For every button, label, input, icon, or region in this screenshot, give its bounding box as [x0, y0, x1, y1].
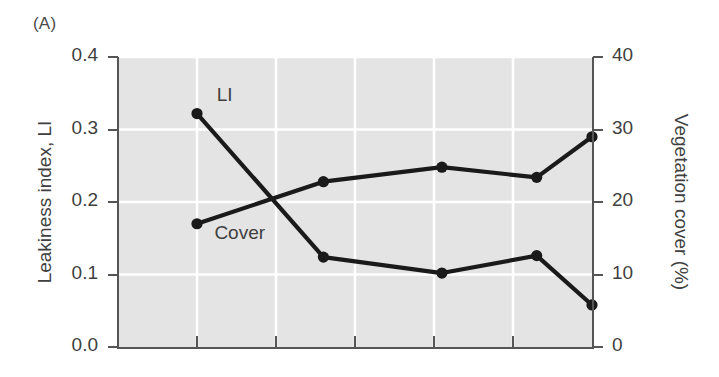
y-axis-right-ticklabel-4: 40 [612, 44, 633, 66]
axis-spine-right [592, 57, 594, 349]
y-axis-right-ticklabel-2: 20 [612, 189, 633, 211]
data-point-li-0 [191, 108, 202, 119]
data-point-li-2 [436, 267, 447, 278]
y-axis-left-tick-4 [108, 56, 118, 58]
y-axis-left-tick-1 [108, 274, 118, 276]
y-axis-right-tick-0 [593, 346, 603, 348]
y-axis-right-ticklabel-0: 0 [612, 334, 623, 356]
x-axis-tick-3 [433, 336, 435, 348]
figure-panel-a: (A) 0.00.10.20.30.4010203040 Leakiness i… [0, 0, 719, 377]
y-axis-right-tick-3 [593, 129, 603, 131]
gridlines [118, 57, 592, 347]
y-axis-right-title: Vegetation cover (%) [666, 57, 692, 347]
y-axis-left-title: Leakiness index, LI [34, 57, 60, 347]
y-axis-right-ticklabel-1: 10 [612, 262, 633, 284]
plot-area [118, 57, 592, 347]
data-series-group [191, 108, 597, 311]
data-point-cover-3 [531, 172, 542, 183]
y-axis-right-tick-4 [593, 56, 603, 58]
y-axis-right-tick-2 [593, 201, 603, 203]
series-label-li: LI [217, 84, 233, 106]
y-axis-left-ticklabel-1: 0.1 [72, 262, 98, 284]
y-axis-left-tick-3 [108, 129, 118, 131]
series-line-li [197, 114, 592, 305]
y-axis-left-tick-0 [108, 346, 118, 348]
y-axis-right-ticklabel-3: 30 [612, 117, 633, 139]
data-point-cover-0 [191, 218, 202, 229]
x-axis-tick-2 [354, 336, 356, 348]
y-axis-left-ticklabel-3: 0.3 [72, 117, 98, 139]
y-axis-left-ticklabel-4: 0.4 [72, 44, 98, 66]
plot-svg [118, 57, 592, 347]
data-point-cover-2 [436, 162, 447, 173]
series-label-cover: Cover [214, 222, 265, 244]
y-axis-right-tick-1 [593, 274, 603, 276]
y-axis-left-ticklabel-2: 0.2 [72, 189, 98, 211]
x-axis-tick-0 [196, 336, 198, 348]
data-point-li-3 [531, 250, 542, 261]
x-axis-tick-1 [275, 336, 277, 348]
y-axis-left-ticklabel-0: 0.0 [72, 334, 98, 356]
x-axis-tick-4 [512, 336, 514, 348]
y-axis-left-tick-2 [108, 201, 118, 203]
panel-label: (A) [33, 14, 56, 34]
axis-spine-left [117, 57, 119, 349]
data-point-cover-1 [318, 176, 329, 187]
data-point-li-1 [318, 252, 329, 263]
